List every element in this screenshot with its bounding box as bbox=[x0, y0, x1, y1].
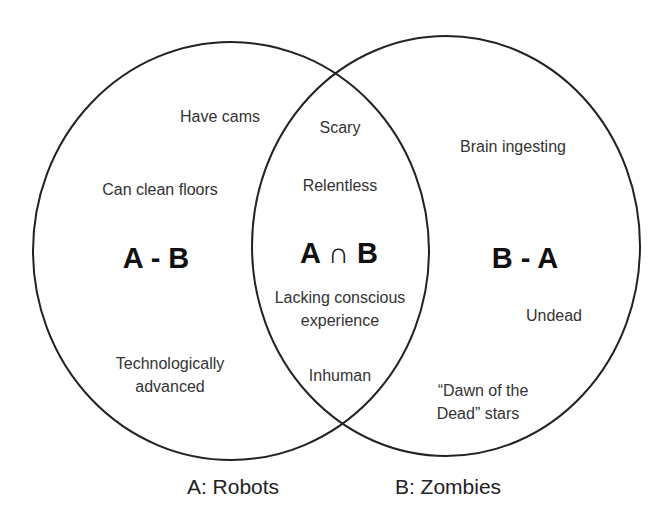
item-have-cams: Have cams bbox=[180, 108, 260, 125]
set-label-b: B: Zombies bbox=[395, 475, 501, 498]
item-experience: experience bbox=[301, 312, 379, 329]
venn-diagram: Have cams Can clean floors A - B Technol… bbox=[0, 0, 668, 532]
item-scary: Scary bbox=[320, 119, 361, 136]
set-label-a: A: Robots bbox=[187, 475, 279, 498]
item-advanced: advanced bbox=[135, 378, 204, 395]
region-title-b-minus-a: B - A bbox=[492, 242, 559, 274]
item-undead: Undead bbox=[526, 307, 582, 324]
item-lacking-conscious: Lacking conscious bbox=[275, 289, 406, 306]
item-brain-ingesting: Brain ingesting bbox=[460, 138, 566, 155]
item-can-clean-floors: Can clean floors bbox=[102, 181, 218, 198]
region-title-a-minus-b: A - B bbox=[123, 242, 190, 274]
item-inhuman: Inhuman bbox=[309, 367, 371, 384]
region-title-intersection: A ∩ B bbox=[300, 237, 378, 269]
item-technologically: Technologically bbox=[116, 355, 225, 372]
item-dead-stars: Dead” stars bbox=[437, 405, 520, 422]
item-dawn-of-the: “Dawn of the bbox=[438, 382, 529, 399]
item-relentless: Relentless bbox=[303, 177, 378, 194]
